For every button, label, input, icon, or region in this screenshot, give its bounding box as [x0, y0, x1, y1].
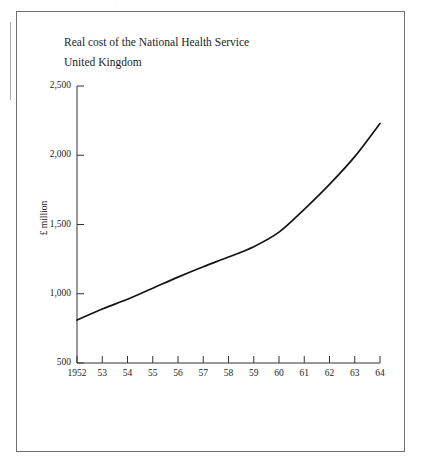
y-tick-label: 500 — [27, 357, 71, 367]
axes — [77, 86, 380, 363]
x-tick-label: 64 — [360, 368, 400, 378]
data-line-nhs-real-cost — [77, 123, 380, 320]
y-tick-label: 2,500 — [27, 80, 71, 90]
scanned-page: · · · · · · · · · · · · Real cost of the… — [0, 0, 423, 476]
y-tick-label: 2,000 — [27, 149, 71, 159]
y-tick-label: 1,500 — [27, 219, 71, 229]
axis-lines — [77, 86, 380, 363]
chart-figure: Real cost of the National Health Service… — [0, 0, 423, 476]
x-tick-marks — [77, 356, 380, 363]
chart-canvas — [0, 0, 423, 476]
y-tick-label: 1,000 — [27, 288, 71, 298]
y-tick-marks — [77, 86, 84, 363]
